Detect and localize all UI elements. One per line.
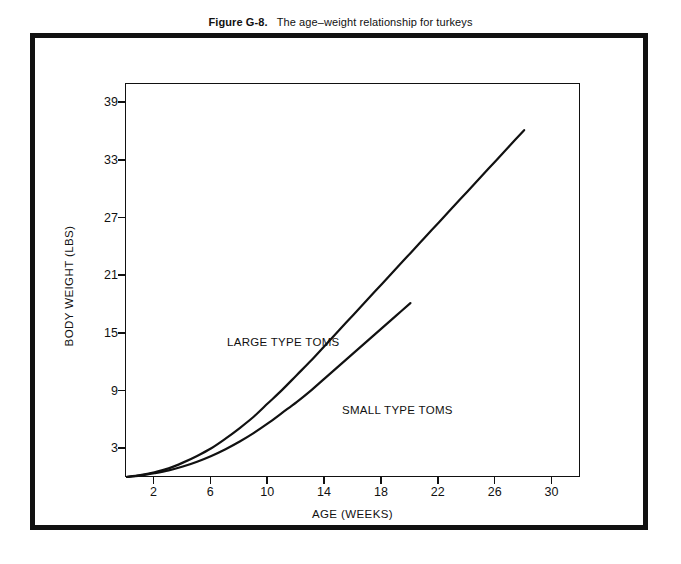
x-tick-label: 26 (488, 485, 502, 499)
figure-border: BODY WEIGHT (LBS) AGE (WEEKS) 3915212733… (30, 33, 648, 530)
y-tick-label: 33 (104, 153, 118, 167)
y-tick-mark (118, 332, 125, 334)
y-axis-tick-labels: 391521273339 (87, 83, 118, 477)
x-tick-label: 6 (207, 485, 214, 499)
plot-curves (126, 84, 581, 478)
x-tick-label: 30 (545, 485, 559, 499)
y-tick-mark (118, 159, 125, 161)
x-tick-mark (551, 477, 553, 484)
x-tick-label: 14 (317, 485, 331, 499)
y-tick-mark (118, 101, 125, 103)
x-tick-mark (323, 477, 325, 484)
y-tick-label: 21 (104, 268, 118, 282)
x-axis-tick-labels: 26101418222630 (125, 485, 580, 503)
y-tick-label: 39 (104, 95, 118, 109)
series-label-large-type-toms: LARGE TYPE TOMS (227, 336, 340, 348)
y-axis-title: BODY WEIGHT (LBS) (63, 206, 75, 366)
y-tick-label: 3 (111, 441, 118, 455)
y-axis-tick-marks (118, 83, 125, 477)
curve-small-type-toms (126, 303, 410, 477)
x-tick-mark (153, 477, 155, 484)
figure-number: Figure G-8. (208, 16, 267, 28)
curve-large-type-toms (126, 130, 524, 477)
x-tick-mark (380, 477, 382, 484)
y-tick-label: 15 (104, 326, 118, 340)
y-tick-mark (118, 390, 125, 392)
x-tick-mark (266, 477, 268, 484)
y-tick-mark (118, 274, 125, 276)
y-tick-label: 9 (111, 384, 118, 398)
x-tick-label: 18 (374, 485, 388, 499)
figure-title: Figure G-8.The age–weight relationship f… (0, 16, 681, 28)
y-tick-mark (118, 217, 125, 219)
x-tick-label: 2 (150, 485, 157, 499)
plot-area: LARGE TYPE TOMS SMALL TYPE TOMS (125, 83, 580, 477)
figure-caption: The age–weight relationship for turkeys (277, 16, 473, 28)
x-axis-title: AGE (WEEKS) (125, 508, 580, 520)
y-tick-label: 27 (104, 211, 118, 225)
x-tick-mark (210, 477, 212, 484)
x-tick-label: 10 (260, 485, 274, 499)
x-tick-label: 22 (431, 485, 445, 499)
series-label-small-type-toms: SMALL TYPE TOMS (342, 404, 453, 416)
y-tick-mark (118, 447, 125, 449)
x-tick-mark (437, 477, 439, 484)
x-tick-mark (494, 477, 496, 484)
x-axis-tick-marks (125, 477, 580, 484)
